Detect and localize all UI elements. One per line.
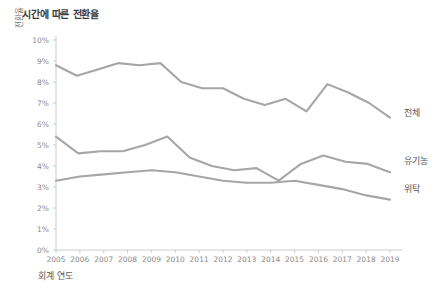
x-tick-label: 2019 bbox=[380, 255, 399, 264]
x-tick-label: 2006 bbox=[70, 255, 89, 264]
series-lines bbox=[56, 63, 390, 200]
y-tick-label: 0% bbox=[37, 246, 49, 255]
x-tick-label: 2018 bbox=[357, 255, 376, 264]
y-tick-label: 10% bbox=[32, 36, 49, 45]
x-tick-label: 2012 bbox=[213, 255, 232, 264]
y-tick-label: 9% bbox=[37, 57, 49, 66]
x-tick-label: 2008 bbox=[118, 255, 137, 264]
plot-area: 0%1%2%3%4%5%6%7%8%9%10% 2005200620072008… bbox=[0, 0, 438, 296]
x-tick-label: 2017 bbox=[333, 255, 352, 264]
y-tick-label: 3% bbox=[37, 183, 49, 192]
y-tick-label: 1% bbox=[37, 225, 49, 234]
x-axis-ticks: 2005200620072008200920102011201220132014… bbox=[46, 250, 399, 264]
x-tick-label: 2011 bbox=[190, 255, 209, 264]
x-tick-label: 2014 bbox=[261, 255, 280, 264]
x-tick-label: 2010 bbox=[166, 255, 185, 264]
series-line-2 bbox=[56, 170, 390, 199]
chart-container: 시간에 따른 전환율 전환율 회계 연도 0%1%2%3%4%5%6%7%8%9… bbox=[0, 0, 438, 296]
x-tick-label: 2013 bbox=[237, 255, 256, 264]
y-tick-label: 7% bbox=[37, 99, 49, 108]
y-tick-label: 6% bbox=[37, 120, 49, 129]
series-label-0: 전체 bbox=[404, 106, 420, 119]
y-tick-label: 5% bbox=[37, 141, 49, 150]
y-axis-ticks: 0%1%2%3%4%5%6%7%8%9%10% bbox=[32, 36, 56, 255]
series-label-1: 유기농 bbox=[404, 154, 428, 167]
series-line-0 bbox=[56, 63, 390, 118]
x-tick-label: 2009 bbox=[142, 255, 161, 264]
x-tick-label: 2016 bbox=[309, 255, 328, 264]
y-tick-label: 4% bbox=[37, 162, 49, 171]
x-tick-label: 2005 bbox=[46, 255, 65, 264]
y-tick-label: 2% bbox=[37, 204, 49, 213]
x-tick-label: 2015 bbox=[285, 255, 304, 264]
y-tick-label: 8% bbox=[37, 78, 49, 87]
x-tick-label: 2007 bbox=[94, 255, 113, 264]
series-label-2: 위탁 bbox=[404, 182, 420, 195]
